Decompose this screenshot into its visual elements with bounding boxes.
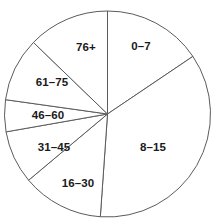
pie-slice-group — [4, 11, 210, 217]
pie-chart-figure: 0–78–1516–3031–4546–6061–7576+ — [0, 0, 214, 222]
pie-chart-svg — [0, 0, 214, 222]
